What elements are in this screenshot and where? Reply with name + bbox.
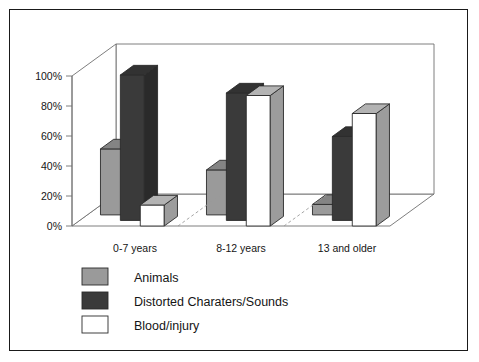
chart-frame: AnimalsDistorted Charaters/SoundsBlood/i… xyxy=(9,9,468,351)
legend[interactable]: AnimalsDistorted Charaters/SoundsBlood/i… xyxy=(82,268,288,333)
legend-swatch-2[interactable] xyxy=(82,316,108,333)
bar-chart-3d: AnimalsDistorted Charaters/SoundsBlood/i… xyxy=(10,10,466,349)
bar-8-12-years-series-3[interactable] xyxy=(246,86,283,226)
bar-front-face xyxy=(352,114,376,227)
bar-front-face xyxy=(246,96,270,227)
y-axis-tick-label-40: 40% xyxy=(41,160,62,172)
legend-label-2: Blood/injury xyxy=(134,319,200,333)
bar-front-face xyxy=(140,205,164,226)
y-axis-tick-label-20: 20% xyxy=(41,190,62,202)
legend-swatch-1[interactable] xyxy=(82,292,108,309)
y-axis-tick-label-80: 80% xyxy=(41,100,62,112)
legend-label-1: Distorted Charaters/Sounds xyxy=(134,295,288,309)
category-label-2: 13 and older xyxy=(318,242,377,254)
category-label-1: 8-12 years xyxy=(216,242,266,254)
bar-13-and-older-series-3[interactable] xyxy=(352,104,389,226)
legend-label-0: Animals xyxy=(134,271,178,285)
y-axis-tick-label-0: 0% xyxy=(47,220,62,232)
bar-side-face xyxy=(270,86,283,226)
y-axis-tick-label-60: 60% xyxy=(41,130,62,142)
bar-side-face xyxy=(376,104,389,226)
bar-front-face xyxy=(120,75,144,221)
category-label-0: 0-7 years xyxy=(113,242,157,254)
y-axis-tick-label-100: 100% xyxy=(35,70,62,82)
legend-swatch-0[interactable] xyxy=(82,268,108,285)
